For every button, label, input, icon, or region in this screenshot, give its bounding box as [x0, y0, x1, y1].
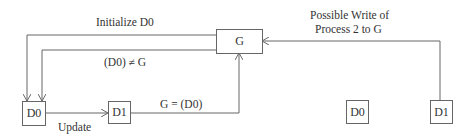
label-assign: G = (D0) — [160, 97, 202, 111]
node-d0-right: D0 — [346, 100, 369, 124]
node-d0-left: D0 — [22, 101, 46, 126]
node-d0-left-label: D0 — [27, 106, 42, 121]
node-d0-right-label: D0 — [350, 105, 365, 120]
node-d1-left-label: D1 — [112, 105, 127, 120]
label-initialize: Initialize D0 — [96, 15, 154, 29]
node-g: G — [216, 29, 263, 54]
edge-possible-write — [262, 41, 440, 100]
node-d1-left: D1 — [108, 101, 131, 124]
diagram-connectors — [0, 0, 474, 137]
label-not-equal: (D0) ≠ G — [104, 55, 146, 69]
label-possible-write-1: Possible Write of — [310, 8, 389, 22]
node-g-label: G — [235, 34, 244, 49]
node-d1-right-label: D1 — [434, 105, 449, 120]
node-d1-right: D1 — [430, 100, 453, 124]
label-update: Update — [58, 120, 91, 134]
label-possible-write-2: Process 2 to G — [315, 22, 382, 36]
